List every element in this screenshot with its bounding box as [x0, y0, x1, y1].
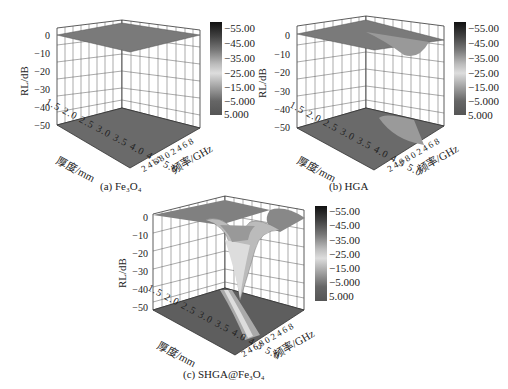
z-tick: −40 [126, 284, 148, 295]
colorbar-a [210, 22, 222, 115]
colorbar-tick: −5.000 [329, 276, 360, 288]
z-axis-title: RL/dB [256, 68, 268, 98]
z-tick: −10 [268, 49, 290, 60]
caption-c: (c) SHGA@Fe₃O₄ [183, 368, 265, 380]
z-tick: −50 [268, 122, 290, 133]
z-tick: 0 [28, 30, 50, 41]
colorbar-tick: 5.000 [468, 109, 493, 121]
colorbar-tick: −35.00 [468, 52, 499, 64]
colorbar-tick: −55.00 [468, 22, 499, 34]
z-tick: −30 [268, 86, 290, 97]
z-axis-title: RL/dB [18, 66, 30, 96]
colorbar-tick: −55.00 [224, 22, 255, 34]
colorbar-tick: 5.000 [329, 290, 354, 302]
z-tick: −10 [126, 230, 148, 241]
colorbar-tick: −25.00 [329, 248, 360, 260]
z-tick: −10 [28, 48, 50, 59]
panel-c: 0 −10 −20 −30 −40 −50 RL/dB 厚度/mm 频率/GHz… [120, 190, 400, 389]
panel-b: 0 −10 −20 −30 −40 −50 RL/dB 厚度/mm 频率/GHz… [254, 0, 508, 195]
z-tick: −20 [126, 248, 148, 259]
colorbar-tick: −45.00 [329, 219, 360, 231]
colorbar-tick: −5.000 [468, 95, 499, 107]
colorbar-tick: 5.000 [224, 108, 249, 120]
panel-a: 0 −10 −20 −30 −40 −50 RL/dB 厚度/mm 频率/GHz… [0, 0, 254, 195]
colorbar-tick: −45.00 [224, 37, 255, 49]
colorbar-tick: −5.000 [224, 95, 255, 107]
z-tick: 0 [268, 30, 290, 41]
colorbar-tick: −35.00 [329, 234, 360, 246]
colorbar-c [315, 206, 327, 301]
colorbar-tick: −15.00 [224, 81, 255, 93]
colorbar-tick: −55.00 [329, 205, 360, 217]
z-tick: 0 [126, 212, 148, 223]
z-tick: −20 [28, 66, 50, 77]
colorbar-tick: −15.00 [329, 262, 360, 274]
z-tick: −30 [28, 84, 50, 95]
z-tick: −50 [28, 120, 50, 131]
colorbar-tick: −25.00 [224, 67, 255, 79]
z-tick: −40 [268, 104, 290, 115]
colorbar-tick: −25.00 [468, 67, 499, 79]
z-tick: −30 [126, 266, 148, 277]
colorbar-tick: −15.00 [468, 81, 499, 93]
colorbar-tick: −45.00 [468, 37, 499, 49]
z-tick: −20 [268, 67, 290, 78]
colorbar-b [454, 22, 466, 115]
z-tick: −50 [126, 302, 148, 313]
colorbar-tick: −35.00 [224, 52, 255, 64]
z-axis-title: RL/dB [116, 258, 128, 288]
